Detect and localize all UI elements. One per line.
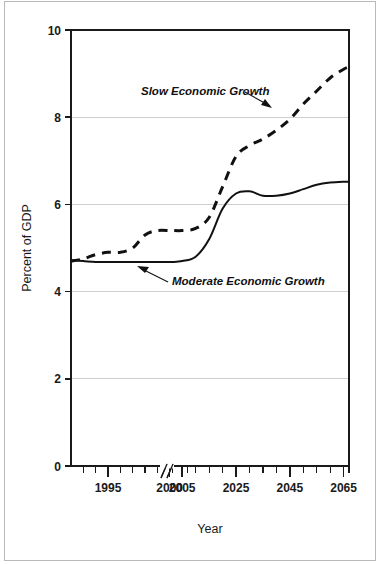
y-tick-label: 8 (54, 111, 61, 125)
y-tick-label: 2 (54, 372, 61, 386)
y-tick-label: 10 (48, 24, 62, 38)
x-tick-label: 2065 (330, 481, 357, 495)
x-tick-label: 2025 (223, 481, 250, 495)
figure-root: 0246810 199520002005202520452065 Slow Ec… (0, 0, 380, 564)
y-axis-ticks: 0246810 (48, 24, 71, 474)
chart-figure: 0246810 199520002005202520452065 Slow Ec… (0, 0, 380, 564)
line-chart: 0246810 199520002005202520452065 Slow Ec… (0, 0, 380, 564)
x-axis-title: Year (197, 522, 222, 536)
x-tick-label: 2005 (169, 481, 196, 495)
y-axis-title: Percent of GDP (20, 204, 34, 292)
x-tick-label: 2045 (276, 481, 303, 495)
y-tick-label: 6 (54, 198, 61, 212)
gridlines (71, 117, 349, 379)
series-line-solid (71, 182, 349, 262)
x-axis-ticks (83, 466, 349, 477)
series-label-moderate: Moderate Economic Growth (172, 275, 325, 287)
arrowhead-slow-icon (261, 99, 272, 108)
x-tick-label: 1995 (95, 481, 122, 495)
annotation-moderate-economic-growth: Moderate Economic Growth (137, 266, 325, 287)
x-axis-tick-labels: 199520002005202520452065 (95, 481, 358, 495)
y-tick-label: 0 (54, 460, 61, 474)
y-tick-label: 4 (54, 285, 61, 299)
annotation-slow-economic-growth: Slow Economic Growth (141, 85, 272, 108)
